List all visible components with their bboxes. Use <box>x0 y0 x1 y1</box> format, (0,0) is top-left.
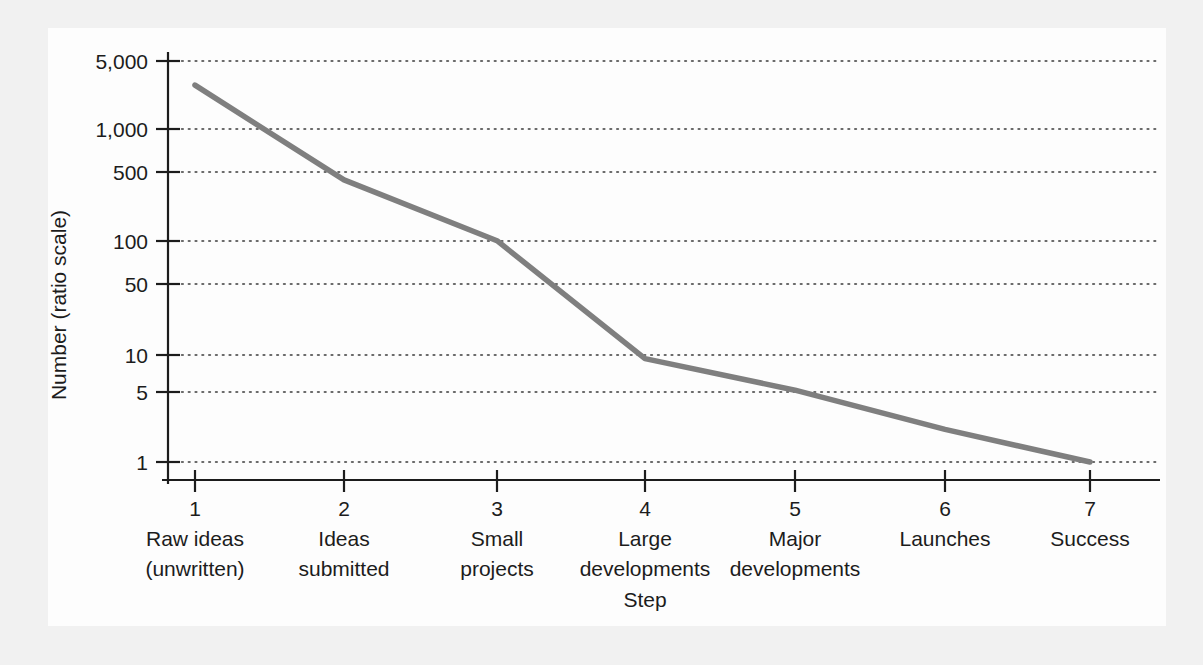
x-tick-number-2: 2 <box>338 497 350 520</box>
y-axis-title: Number (ratio scale) <box>47 210 70 400</box>
x-category-3-line2: projects <box>460 557 534 580</box>
x-category-5-line1: Major <box>769 527 822 550</box>
x-axis-title: Step <box>623 588 666 611</box>
x-tick-number-3: 3 <box>491 497 503 520</box>
x-category-4-line2: developments <box>580 557 711 580</box>
x-category-2-line1: Ideas <box>318 527 369 550</box>
y-tick-label-50: 50 <box>125 273 148 296</box>
data-series-line <box>195 85 1090 462</box>
x-category-6-line1: Launches <box>899 527 990 550</box>
x-axis-tick-numbers: 1 2 3 4 5 6 7 <box>189 497 1096 520</box>
x-category-3-line1: Small <box>471 527 524 550</box>
page-background: 5,000 1,000 500 100 50 10 5 1 Number (ra… <box>0 0 1203 665</box>
line-chart-svg: 5,000 1,000 500 100 50 10 5 1 Number (ra… <box>0 0 1203 665</box>
x-tick-number-7: 7 <box>1084 497 1096 520</box>
x-tick-number-5: 5 <box>789 497 801 520</box>
x-axis-category-labels-line1: Raw ideas Ideas Small Large Major Launch… <box>146 527 1130 550</box>
x-tick-number-4: 4 <box>639 497 651 520</box>
x-category-5-line2: developments <box>730 557 861 580</box>
x-category-7-line1: Success <box>1050 527 1129 550</box>
x-tick-number-6: 6 <box>939 497 951 520</box>
x-category-1-line2: (unwritten) <box>145 557 244 580</box>
chart-figure: 5,000 1,000 500 100 50 10 5 1 Number (ra… <box>0 0 1203 665</box>
x-category-2-line2: submitted <box>298 557 389 580</box>
gridlines <box>168 61 1160 462</box>
y-tick-label-5: 5 <box>136 381 148 404</box>
x-category-1-line1: Raw ideas <box>146 527 244 550</box>
y-tick-label-5000: 5,000 <box>95 50 148 73</box>
y-tick-label-10: 10 <box>125 344 148 367</box>
y-tick-label-500: 500 <box>113 161 148 184</box>
x-category-4-line1: Large <box>618 527 672 550</box>
y-axis-tick-labels: 5,000 1,000 500 100 50 10 5 1 <box>95 50 148 474</box>
y-tick-label-1000: 1,000 <box>95 118 148 141</box>
x-tick-number-1: 1 <box>189 497 201 520</box>
x-axis-category-labels-line2: (unwritten) submitted projects developme… <box>145 557 860 580</box>
y-tick-label-1: 1 <box>136 451 148 474</box>
y-tick-label-100: 100 <box>113 230 148 253</box>
